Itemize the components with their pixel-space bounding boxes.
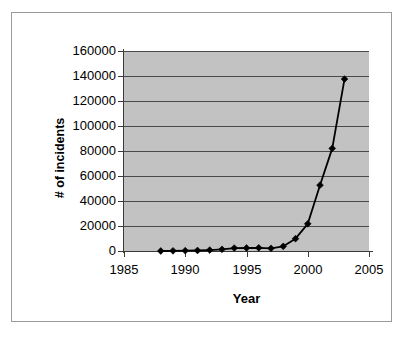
- x-axis-tick-label: 1990: [162, 263, 208, 276]
- data-point-marker: [170, 247, 177, 254]
- x-axis-tick-label: 1995: [224, 263, 270, 276]
- data-series-incidents: [124, 51, 369, 251]
- data-point-marker: [157, 248, 164, 255]
- data-point-marker: [206, 247, 213, 254]
- data-point-marker: [243, 245, 250, 252]
- y-axis-tick-label: 0: [54, 244, 116, 257]
- data-point-marker: [255, 244, 262, 251]
- y-axis-title-wrapper: # of incidents: [34, 43, 64, 243]
- x-axis-tick: [247, 251, 248, 257]
- series-markers: [157, 76, 348, 255]
- series-line: [161, 79, 345, 251]
- x-axis-tick: [308, 251, 309, 257]
- x-axis-tick-label: 1985: [101, 263, 147, 276]
- data-point-marker: [329, 145, 336, 152]
- data-point-marker: [317, 182, 324, 189]
- data-point-marker: [231, 245, 238, 252]
- x-axis-tick: [124, 251, 125, 257]
- data-point-marker: [194, 247, 201, 254]
- x-axis-tick: [369, 251, 370, 257]
- data-point-marker: [341, 76, 348, 83]
- x-axis-title: Year: [124, 291, 369, 306]
- x-axis-tick-label: 2005: [346, 263, 392, 276]
- y-axis-title: # of incidents: [53, 88, 67, 228]
- x-axis-tick-labels: 19851990199520002005: [12, 263, 403, 281]
- screenshot-root: 0200004000060000800001000001200001400001…: [0, 0, 403, 337]
- data-point-marker: [182, 247, 189, 254]
- data-point-marker: [268, 245, 275, 252]
- chart-frame: 0200004000060000800001000001200001400001…: [11, 12, 392, 322]
- x-axis-tick-label: 2000: [285, 263, 331, 276]
